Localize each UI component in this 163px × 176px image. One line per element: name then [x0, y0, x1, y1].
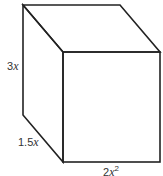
depth-coef: 1.5: [18, 136, 33, 148]
width-label: 2x2: [103, 165, 119, 176]
depth-label: 1.5x: [18, 136, 39, 148]
depth-var: x: [33, 135, 38, 149]
front-face: [63, 52, 160, 162]
width-exp: 2: [114, 164, 118, 173]
height-var: x: [13, 59, 18, 73]
prism-figure: [0, 0, 163, 176]
height-label: 3x: [7, 60, 18, 72]
